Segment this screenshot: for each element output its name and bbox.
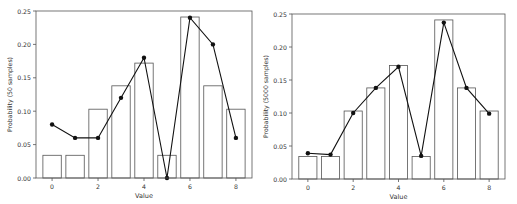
y-tick-label: 0.15 [273,77,287,84]
y-tick-label: 0.00 [17,175,31,182]
y-axis-label: Probability (50 samples) [6,57,14,132]
bar [344,111,362,179]
x-tick-label: 4 [397,184,401,191]
bar [367,88,385,179]
y-tick-label: 0.25 [17,8,31,15]
x-tick-label: 8 [234,183,238,190]
bar [480,111,498,179]
y-tick-label: 0.20 [17,41,31,48]
line-marker [351,111,355,115]
line-marker [96,136,100,140]
line-marker [306,151,310,155]
chart-50-samples: 0.000.050.100.150.200.2502468ValueProbab… [0,0,258,204]
bar [66,155,84,178]
y-tick-label: 0.20 [273,44,287,51]
bar [135,63,153,178]
x-tick-label: 4 [142,183,146,190]
y-tick-label: 0.00 [273,176,287,183]
bar [181,17,199,178]
x-tick-label: 2 [96,183,100,190]
bar [412,157,430,179]
line-marker [73,136,77,140]
bar [204,86,222,178]
y-tick-label: 0.05 [17,141,31,148]
x-tick-label: 0 [50,183,54,190]
x-axis-label: Value [390,193,408,201]
bar [389,65,407,179]
bar [227,109,245,178]
bar [89,109,107,178]
bar [321,157,339,179]
line-marker [211,42,215,46]
y-tick-label: 0.10 [273,110,287,117]
y-tick-label: 0.05 [273,143,287,150]
x-tick-label: 2 [351,184,355,191]
line-marker [442,20,446,24]
x-tick-label: 6 [442,184,446,191]
x-axis-label: Value [135,192,153,200]
line-marker [188,15,192,19]
chart-5000-samples: 0.000.050.100.150.200.2502468ValueProbab… [258,0,517,204]
x-tick-label: 6 [188,183,192,190]
line-marker [374,86,378,90]
line-marker [464,86,468,90]
line-marker [142,56,146,60]
x-tick-label: 0 [306,184,310,191]
bar [435,20,453,179]
line-marker [234,136,238,140]
line-marker [50,122,54,126]
bar [43,155,61,178]
line-marker [396,65,400,69]
line-marker [419,154,423,158]
x-tick-label: 8 [487,184,491,191]
bar [457,88,475,179]
bar [299,157,317,179]
y-tick-label: 0.25 [273,11,287,18]
y-tick-label: 0.15 [17,74,31,81]
line-marker [328,152,332,156]
y-axis-label: Probability (5000 samples) [262,55,270,138]
line-marker [487,111,491,115]
line-marker [119,96,123,100]
y-tick-label: 0.10 [17,108,31,115]
